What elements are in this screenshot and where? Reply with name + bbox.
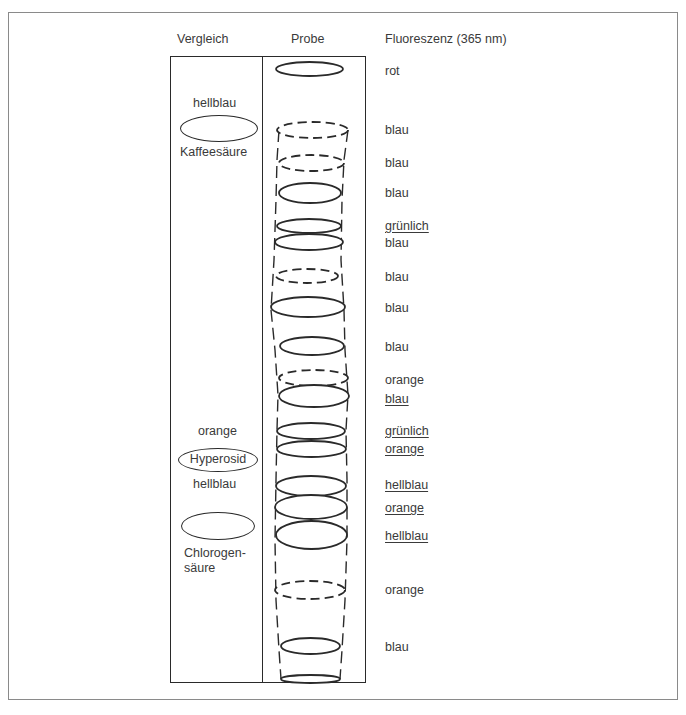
fluorescence-label: blau <box>385 156 409 170</box>
fluorescence-label: rot <box>385 64 400 78</box>
sample-spot <box>277 423 345 439</box>
sample-spot <box>279 370 348 386</box>
sample-spot <box>277 219 341 233</box>
fluorescence-label: blau <box>385 123 409 137</box>
sample-spot <box>275 581 345 599</box>
sample-spot <box>275 234 343 250</box>
fluorescence-label: hellblau <box>385 529 428 543</box>
sample-spot <box>275 495 347 519</box>
fluorescence-label: orange <box>385 373 424 387</box>
fluorescence-label: blau <box>385 301 409 315</box>
fluorescence-label: blau <box>385 270 409 284</box>
sample-spot <box>276 269 338 283</box>
sample-spot <box>276 62 343 76</box>
fluorescence-label: blau <box>385 640 409 654</box>
sample-spot <box>279 155 344 171</box>
sample-spot <box>279 183 341 203</box>
sample-lane-drawing <box>0 0 686 715</box>
fluorescence-label: grünlich <box>385 219 429 233</box>
sample-spots <box>271 62 349 683</box>
fluorescence-label: orange <box>385 583 424 597</box>
fluorescence-label: hellblau <box>385 478 428 492</box>
fluorescence-label: blau <box>385 236 409 250</box>
sample-spot <box>277 122 348 138</box>
sample-spot <box>279 385 349 407</box>
fluorescence-label: blau <box>385 186 409 200</box>
sample-spot <box>276 521 347 549</box>
fluorescence-label: orange <box>385 501 424 515</box>
sample-spot <box>280 337 344 355</box>
sample-spot <box>281 675 340 683</box>
fluorescence-label: grünlich <box>385 424 429 438</box>
fluorescence-label: orange <box>385 442 424 456</box>
fluorescence-label: blau <box>385 340 409 354</box>
sample-spot <box>277 441 346 457</box>
sample-spot <box>271 297 345 317</box>
sample-spot <box>281 638 340 654</box>
fluorescence-label: blau <box>385 392 409 406</box>
sample-spot <box>276 476 346 496</box>
